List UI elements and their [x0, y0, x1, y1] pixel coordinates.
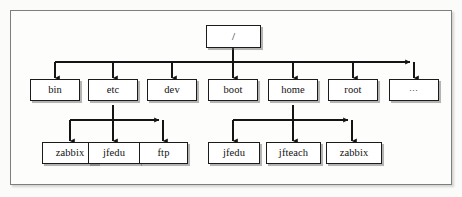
node-label: bin [48, 85, 62, 96]
node-label: home [281, 85, 305, 96]
node-label: jfedu [223, 148, 245, 159]
node-etc[interactable]: etc [88, 79, 138, 101]
node-label: jfteach [279, 148, 308, 159]
node-home-zabbix[interactable]: zabbix [326, 142, 382, 164]
node-label: zabbix [56, 148, 85, 159]
node-dev[interactable]: dev [147, 79, 197, 101]
node-home[interactable]: home [268, 79, 318, 101]
node-etc-jfedu[interactable]: jfedu [88, 142, 140, 164]
node-root[interactable]: / [206, 25, 261, 48]
node-label: … [409, 84, 419, 93]
node-label: / [232, 31, 235, 42]
node-boot[interactable]: boot [208, 79, 258, 101]
node-home-jfedu[interactable]: jfedu [208, 142, 260, 164]
node-label: root [344, 85, 361, 96]
node-home-jfteach[interactable]: jfteach [266, 142, 321, 164]
node-label: zabbix [340, 148, 369, 159]
node-label: etc [107, 85, 120, 96]
diagram-canvas: / bin etc dev boot home root … zabbix jf… [0, 0, 462, 197]
node-label: jfedu [103, 148, 125, 159]
node-label: dev [164, 85, 179, 96]
node-etc-ftp[interactable]: ftp [139, 142, 188, 164]
node-ellipsis[interactable]: … [389, 79, 439, 101]
node-label: ftp [158, 148, 170, 159]
node-root-dir[interactable]: root [328, 79, 378, 101]
node-label: boot [223, 85, 242, 96]
node-bin[interactable]: bin [30, 79, 80, 101]
